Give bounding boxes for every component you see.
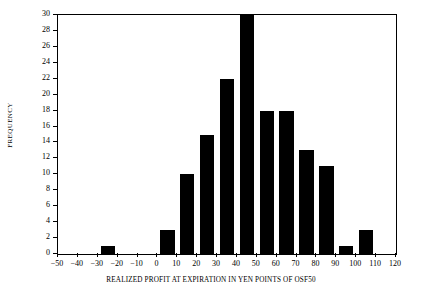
x-tick-mark xyxy=(236,253,237,257)
y-axis-title-label: FREQUENCY xyxy=(6,102,14,148)
y-tick-label: 24 xyxy=(28,56,50,67)
x-tick-mark xyxy=(156,253,157,257)
y-tick-label: 6 xyxy=(28,199,50,210)
y-tick-mark xyxy=(53,157,57,158)
x-tick-mark xyxy=(296,253,297,257)
y-tick-mark xyxy=(53,141,57,142)
y-tick-label: 2 xyxy=(28,231,50,242)
y-tick-label: 10 xyxy=(28,167,50,178)
y-tick-label: 0 xyxy=(28,247,50,258)
y-tick-label: 26 xyxy=(28,40,50,51)
y-tick-mark xyxy=(53,62,57,63)
x-tick-mark xyxy=(256,253,257,257)
y-tick-mark xyxy=(53,94,57,95)
y-tick-label: 20 xyxy=(28,88,50,99)
x-tick-mark xyxy=(375,253,376,257)
x-tick-mark xyxy=(196,253,197,257)
y-tick-label: 16 xyxy=(28,120,50,131)
x-tick-mark xyxy=(57,253,58,257)
x-tick-mark xyxy=(315,253,316,257)
x-tick-mark xyxy=(97,253,98,257)
x-tick-mark xyxy=(77,253,78,257)
x-tick-label: 120 xyxy=(381,258,409,269)
y-tick-mark xyxy=(53,126,57,127)
x-tick-mark xyxy=(216,253,217,257)
histogram-chart: FREQUENCY 024681012141618202224262830 −5… xyxy=(0,0,422,297)
x-tick-mark xyxy=(176,253,177,257)
y-tick-mark xyxy=(53,173,57,174)
y-tick-label: 28 xyxy=(28,24,50,35)
y-tick-label: 30 xyxy=(28,8,50,19)
y-tick-mark xyxy=(53,78,57,79)
y-tick-mark xyxy=(53,221,57,222)
y-tick-label: 14 xyxy=(28,135,50,146)
y-tick-mark xyxy=(53,237,57,238)
y-tick-label: 12 xyxy=(28,151,50,162)
y-tick-label: 18 xyxy=(28,104,50,115)
x-tick-mark xyxy=(335,253,336,257)
y-tick-mark xyxy=(53,46,57,47)
y-tick-label: 22 xyxy=(28,72,50,83)
y-tick-mark xyxy=(53,30,57,31)
y-axis-title: FREQUENCY xyxy=(0,0,20,250)
y-tick-mark xyxy=(53,110,57,111)
x-tick-mark xyxy=(137,253,138,257)
x-tick-mark xyxy=(117,253,118,257)
x-axis-ticks: −50−40−30−20−100102030405060708090100110… xyxy=(57,253,395,273)
y-tick-label: 8 xyxy=(28,183,50,194)
y-axis-ticks: 024681012141618202224262830 xyxy=(57,14,395,253)
y-tick-label: 4 xyxy=(28,215,50,226)
x-axis-title: REALIZED PROFIT AT EXPIRATION IN YEN POI… xyxy=(0,276,422,284)
x-tick-mark xyxy=(355,253,356,257)
x-tick-mark xyxy=(395,253,396,257)
y-tick-mark xyxy=(53,14,57,15)
y-tick-mark xyxy=(53,205,57,206)
y-tick-mark xyxy=(53,189,57,190)
x-tick-mark xyxy=(276,253,277,257)
